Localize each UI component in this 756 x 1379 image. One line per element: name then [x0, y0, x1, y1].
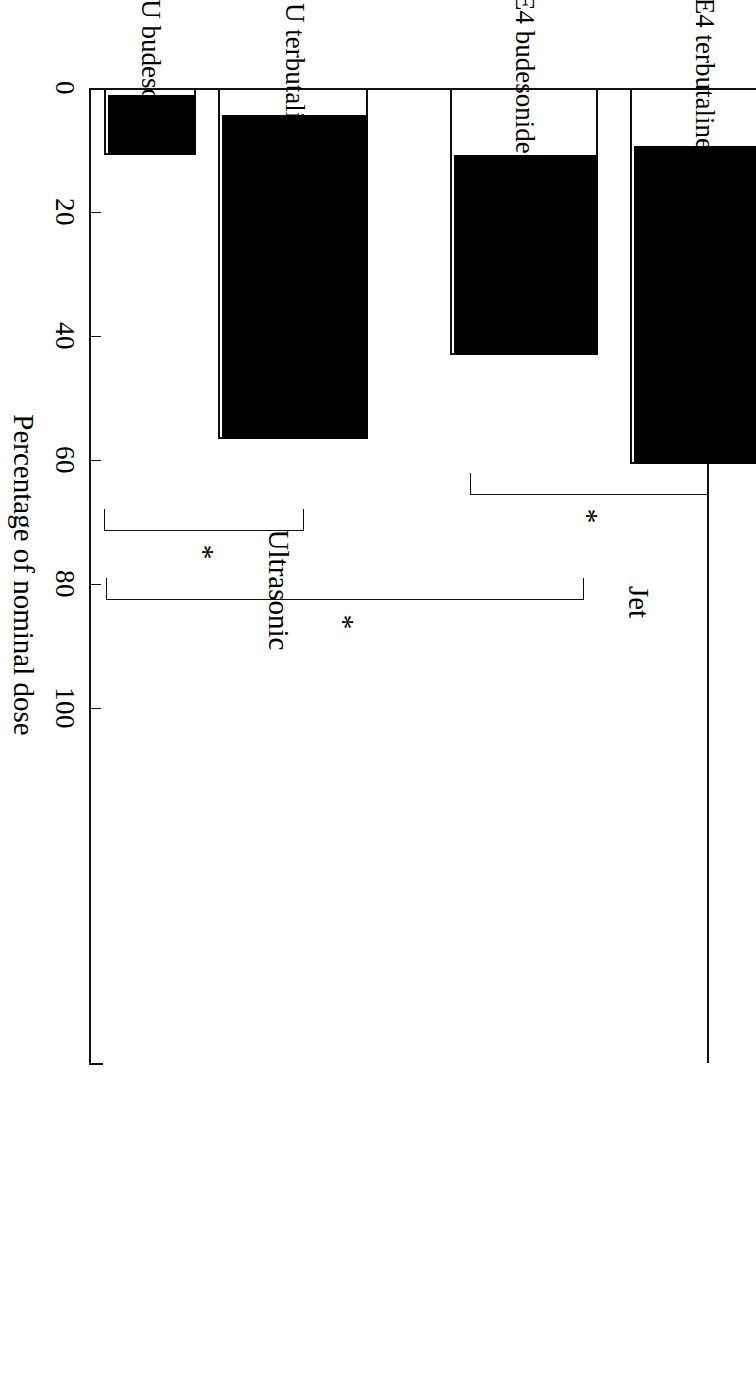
axis-cap-right [89, 1063, 103, 1065]
sig-bracket-ultrasonic [104, 509, 304, 531]
axis-tick-label-100: 100 [51, 687, 78, 729]
axis-tick-20 [90, 212, 101, 213]
bar-fill-solid [222, 115, 368, 439]
axis-tick-0 [90, 88, 101, 89]
category-label-spira-u-terbutaline: Spira U terbutaline [279, 0, 310, 145]
axis-tick-60 [90, 460, 101, 461]
bar-fill-solid [634, 146, 756, 464]
sig-bracket-jet [470, 473, 708, 495]
figure-root: 0 20 40 60 80 100 Percentage of nominal … [0, 0, 756, 1379]
axis-tick-label-0: 0 [51, 81, 78, 95]
bar-fill-solid [454, 155, 598, 355]
sig-star-groups: * [329, 615, 359, 630]
plot-frame [89, 88, 709, 1063]
group-label-jet: Jet [622, 586, 655, 618]
category-label-spira-e4-terbutaline: Spira E4 terbutaline [689, 0, 720, 150]
sig-bracket-groups [106, 578, 584, 600]
axis-tick-100 [90, 708, 101, 709]
axis-tick-40 [90, 336, 101, 337]
value-axis-title: Percentage of nominal dose [7, 0, 40, 1150]
sig-star-ultrasonic: * [189, 545, 219, 560]
value-axis-line [89, 88, 91, 1065]
sig-star-jet: * [573, 509, 603, 524]
category-label-spira-u-budesonide: Spira U budesonide [135, 0, 166, 148]
axis-tick-label-80: 80 [51, 570, 78, 598]
axis-tick-80 [90, 584, 101, 585]
axis-tick-label-40: 40 [51, 322, 78, 350]
axis-tick-label-60: 60 [51, 446, 78, 474]
category-label-spira-e4-budesonide: Spira E4 budesonide [509, 0, 540, 154]
axis-tick-label-20: 20 [51, 198, 78, 226]
